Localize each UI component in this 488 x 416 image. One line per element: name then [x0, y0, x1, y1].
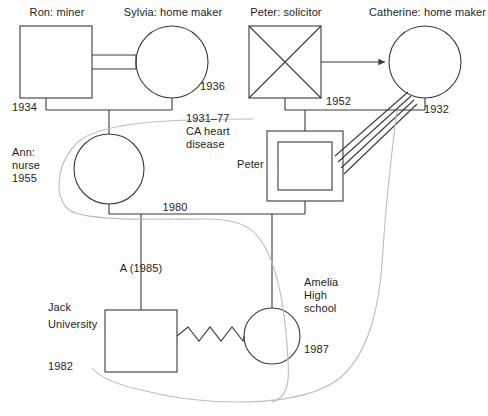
label-peter-sr-year: 1952	[326, 95, 360, 108]
label-marriage-1980: 1980	[155, 201, 195, 214]
emotional-curve-down-right	[206, 219, 288, 402]
label-pregnancy-loss: A (1985)	[108, 262, 174, 275]
label-ron-year: 1934	[12, 101, 46, 114]
label-peter-sr-name: Peter: solicitor	[243, 6, 329, 19]
label-ann-line3: 1955	[12, 172, 60, 185]
label-peter-sr-note-line1: 1931–77	[186, 112, 250, 125]
conflict-zigzag-jack-amelia	[177, 327, 244, 341]
genogram-drawing	[0, 0, 488, 416]
label-catherine-year: 1932	[424, 103, 458, 116]
label-ann-line1: Ann:	[12, 146, 60, 159]
shape-catherine-circle	[389, 26, 461, 98]
label-peter-sr-note-line3: disease	[186, 138, 250, 151]
label-jack-line2: University	[48, 318, 110, 331]
label-sylvia-year: 1936	[200, 80, 234, 93]
label-amelia-line2: High	[304, 289, 358, 302]
label-jack-year: 1982	[48, 360, 88, 373]
label-amelia-year: 1987	[304, 343, 344, 356]
label-sylvia-name: Sylvia: home maker	[118, 6, 228, 19]
shape-sylvia-circle	[136, 26, 208, 98]
label-peter-jr-name: Peter	[237, 158, 277, 171]
label-ann-line2: nurse	[12, 159, 60, 172]
label-jack-line1: Jack	[48, 301, 110, 314]
genogram-canvas: Ron: miner 1934 Sylvia: home maker 1936 …	[0, 0, 488, 416]
label-catherine-name: Catherine: home maker	[369, 6, 485, 19]
shape-peter-jr-inner-square	[278, 142, 332, 190]
shape-ann-circle	[74, 134, 144, 204]
emotional-curve-catherine-long	[150, 110, 397, 402]
label-peter-sr-note-line2: CA heart	[186, 125, 250, 138]
shape-jack-square	[105, 310, 177, 372]
shape-ron-square	[20, 26, 92, 98]
shape-amelia-circle	[244, 308, 300, 364]
label-ron-name: Ron: miner	[16, 6, 98, 19]
label-amelia-line1: Amelia	[304, 276, 358, 289]
label-amelia-line3: school	[304, 302, 358, 315]
